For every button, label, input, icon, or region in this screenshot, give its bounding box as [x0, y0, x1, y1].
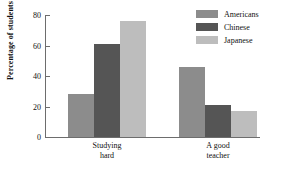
y-tick-label: 20	[33, 102, 41, 111]
bar-japanese-studying-hard	[120, 21, 146, 137]
bar-chart: Percentage of students 020406080 Studyin…	[0, 0, 288, 169]
y-tick-label: 60	[33, 41, 41, 50]
bar-americans-studying-hard	[68, 94, 94, 137]
legend-item: Chinese	[196, 21, 288, 33]
legend-item: Americans	[196, 8, 288, 20]
x-axis-line	[45, 137, 260, 138]
legend-item: Japanese	[196, 34, 288, 46]
y-axis-title: Percentage of students	[6, 0, 15, 93]
bar-chinese-a-good-teacher	[205, 105, 231, 137]
bar-group	[68, 15, 146, 137]
y-tick-label: 80	[33, 11, 41, 20]
legend-swatch-chinese	[196, 23, 218, 31]
legend-swatch-japanese	[196, 36, 218, 44]
y-tick-mark	[46, 137, 50, 138]
legend-swatch-americans	[196, 10, 218, 18]
legend-label-chinese: Chinese	[224, 23, 250, 32]
bar-japanese-a-good-teacher	[231, 111, 257, 137]
bar-chinese-studying-hard	[94, 44, 120, 137]
bar-americans-a-good-teacher	[179, 67, 205, 137]
category-label: Studyinghard	[62, 141, 152, 160]
category-label: A goodteacher	[173, 141, 263, 160]
chart-legend: Americans Chinese Japanese	[196, 8, 288, 47]
y-tick-label: 0	[37, 133, 41, 142]
legend-label-japanese: Japanese	[224, 36, 252, 45]
legend-label-americans: Americans	[224, 10, 259, 19]
y-tick-label: 40	[33, 72, 41, 81]
